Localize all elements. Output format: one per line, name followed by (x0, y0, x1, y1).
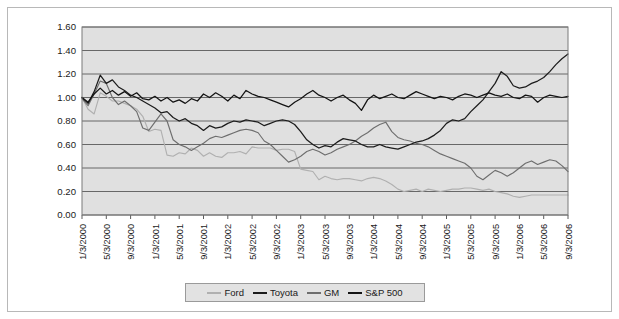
legend-item-toyota[interactable]: Toyota (253, 288, 298, 298)
y-axis-tick-label: 0.00 (57, 209, 76, 220)
x-axis-tick-label: 9/3/2002 (272, 224, 282, 260)
x-axis-tick-label: 9/3/2005 (491, 224, 501, 260)
x-axis-tick-label: 5/3/2000 (102, 224, 112, 260)
x-axis-tick-label: 9/3/2006 (564, 224, 574, 260)
legend-item-ford[interactable]: Ford (207, 288, 244, 298)
legend-label: Ford (224, 288, 244, 298)
y-axis-tick-label: 0.40 (57, 162, 76, 173)
x-axis-tick-label: 5/3/2004 (394, 224, 404, 260)
y-axis-tick-label: 0.80 (57, 115, 76, 126)
x-axis-tick-label: 1/3/2000 (78, 224, 88, 260)
x-axis-tick-label: 5/3/2001 (175, 224, 185, 260)
chart-legend: FordToyotaGMS&P 500 (185, 283, 425, 302)
y-axis-tick-labels: 0.000.200.400.600.801.001.201.401.60 (57, 21, 76, 220)
y-axis-tick-label: 1.40 (57, 45, 76, 56)
legend-item-gm[interactable]: GM (307, 288, 339, 298)
legend-label: GM (324, 288, 339, 298)
x-axis-tick-label: 1/3/2002 (223, 224, 233, 260)
x-axis-tick-label: 5/3/2006 (539, 224, 549, 260)
legend-item-s-p-500[interactable]: S&P 500 (348, 288, 402, 298)
y-axis-tick-label: 1.20 (57, 68, 76, 79)
legend-label: S&P 500 (365, 288, 402, 298)
legend-label: Toyota (270, 288, 298, 298)
x-axis-tick-label: 1/3/2006 (515, 224, 525, 260)
x-axis-tick-label: 9/3/2004 (418, 224, 428, 260)
x-axis-tick-label: 5/3/2005 (466, 224, 476, 260)
x-axis-tick-label: 1/3/2003 (296, 224, 306, 260)
y-axis-tick-label: 1.00 (57, 92, 76, 103)
x-axis-tick-label: 5/3/2002 (248, 224, 258, 260)
x-axis-tick-label: 1/3/2005 (442, 224, 452, 260)
legend-swatch-icon (207, 292, 221, 294)
x-axis-tick-label: 1/3/2004 (369, 224, 379, 260)
y-axis-tick-label: 0.20 (57, 186, 76, 197)
line-chart: 0.000.200.400.600.801.001.201.401.601/3/… (0, 0, 619, 319)
y-axis-tick-label: 1.60 (57, 21, 76, 32)
x-axis-tick-label: 5/3/2003 (321, 224, 331, 260)
x-axis-tick-label: 9/3/2003 (345, 224, 355, 260)
x-axis-ticks: 1/3/20005/3/20009/3/20001/3/20015/3/2001… (78, 215, 574, 260)
y-axis-tick-label: 0.60 (57, 139, 76, 150)
x-axis-tick-label: 1/3/2001 (151, 224, 161, 260)
legend-swatch-icon (253, 292, 267, 294)
legend-swatch-icon (307, 292, 321, 294)
chart-figure: 0.000.200.400.600.801.001.201.401.601/3/… (0, 0, 619, 319)
x-axis-tick-label: 9/3/2001 (199, 224, 209, 260)
legend-swatch-icon (348, 292, 362, 294)
x-axis-tick-label: 9/3/2000 (126, 224, 136, 260)
